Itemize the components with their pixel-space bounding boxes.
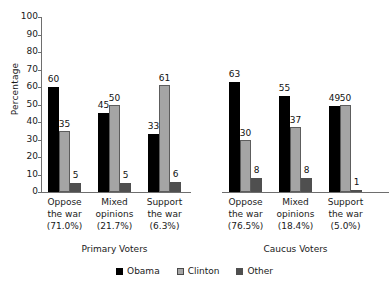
bar-obama: 45 <box>98 113 109 192</box>
legend-swatch-clinton-icon <box>177 268 184 275</box>
bar-value-label: 49 <box>329 94 340 103</box>
bar-value-label: 60 <box>48 75 59 84</box>
bar-other: 1 <box>351 190 362 192</box>
y-axis-line <box>41 17 42 192</box>
bar-value-label: 61 <box>159 74 170 83</box>
bar-obama: 63 <box>229 82 240 192</box>
bar-clinton: 35 <box>59 131 70 192</box>
y-axis-tick-mark <box>38 140 41 141</box>
bar-obama: 60 <box>48 87 59 192</box>
bar-other: 5 <box>120 183 131 192</box>
category-label-line: Support <box>315 196 377 208</box>
bar-value-label: 5 <box>123 171 129 180</box>
bar-group: 49501 <box>329 17 362 192</box>
bar-value-label: 8 <box>254 166 260 175</box>
y-axis-tick-mark <box>38 70 41 71</box>
bar-value-label: 55 <box>279 84 290 93</box>
category-label-line: Support <box>134 196 196 208</box>
bar-value-label: 8 <box>304 166 310 175</box>
legend-label: Other <box>247 266 273 276</box>
bar-clinton: 30 <box>240 140 251 193</box>
bar-other: 8 <box>251 178 262 192</box>
bar-group: 60355 <box>48 17 81 192</box>
bar-group: 33616 <box>148 17 181 192</box>
y-axis-tick-label: 20 <box>2 152 38 161</box>
bar-value-label: 50 <box>340 94 351 103</box>
y-axis-tick-label: 0 <box>2 187 38 196</box>
x-axis-line-primary <box>41 192 191 193</box>
bar-other: 6 <box>170 182 181 193</box>
category-label-line: the war <box>315 208 377 220</box>
legend-swatch-other-icon <box>236 268 243 275</box>
bar-value-label: 5 <box>73 171 79 180</box>
bar-obama: 33 <box>148 134 159 192</box>
panel-title: Primary Voters <box>55 244 175 254</box>
legend-label: Obama <box>127 266 160 276</box>
y-axis-tick-label: 80 <box>2 47 38 56</box>
y-axis-tick-mark <box>38 157 41 158</box>
y-axis-tick-label: 10 <box>2 170 38 179</box>
y-axis-tick-mark <box>38 105 41 106</box>
y-axis-tick-label: 60 <box>2 82 38 91</box>
legend-label: Clinton <box>188 266 220 276</box>
bar-group: 55378 <box>279 17 312 192</box>
category-label-line: (5.0%) <box>315 220 377 232</box>
legend-item-clinton[interactable]: Clinton <box>177 266 220 276</box>
bar-clinton: 61 <box>159 85 170 192</box>
bar-value-label: 30 <box>240 129 251 138</box>
bar-value-label: 1 <box>354 178 360 187</box>
legend-item-other[interactable]: Other <box>236 266 273 276</box>
y-axis-tick-mark <box>38 52 41 53</box>
bar-value-label: 33 <box>148 122 159 131</box>
bar-clinton: 50 <box>340 105 351 193</box>
y-axis-tick-mark <box>38 175 41 176</box>
bar-other: 8 <box>301 178 312 192</box>
category-label-line: (6.3%) <box>134 220 196 232</box>
y-axis-tick-label: 50 <box>2 100 38 109</box>
bar-group: 45505 <box>98 17 131 192</box>
category-label: Supportthe war(6.3%) <box>134 196 196 232</box>
bar-value-label: 37 <box>290 116 301 125</box>
bar-chart: Percentage 1009080706050403020100 603554… <box>0 0 389 284</box>
y-axis-tick-label: 30 <box>2 135 38 144</box>
chart-legend: ObamaClintonOther <box>0 266 389 276</box>
bar-value-label: 63 <box>229 70 240 79</box>
bar-obama: 49 <box>329 106 340 192</box>
y-axis-tick-mark <box>38 17 41 18</box>
y-axis-tick-label: 90 <box>2 30 38 39</box>
y-axis-tick-mark <box>38 87 41 88</box>
bar-value-label: 50 <box>109 94 120 103</box>
legend-item-obama[interactable]: Obama <box>116 266 160 276</box>
y-axis-tick-label: 100 <box>2 12 38 21</box>
category-label: Supportthe war(5.0%) <box>315 196 377 232</box>
bar-obama: 55 <box>279 96 290 192</box>
bar-clinton: 37 <box>290 127 301 192</box>
y-axis-tick-label: 40 <box>2 117 38 126</box>
bar-value-label: 35 <box>59 120 70 129</box>
bar-value-label: 6 <box>173 170 179 179</box>
x-axis-line-caucus <box>222 192 389 193</box>
bar-value-label: 45 <box>98 101 109 110</box>
y-axis-tick-label: 70 <box>2 65 38 74</box>
bar-clinton: 50 <box>109 105 120 193</box>
y-axis-ticks: 1009080706050403020100 <box>0 0 38 284</box>
bar-other: 5 <box>70 183 81 192</box>
y-axis-tick-mark <box>38 35 41 36</box>
panel-title: Caucus Voters <box>236 244 356 254</box>
legend-swatch-obama-icon <box>116 268 123 275</box>
y-axis-tick-mark <box>38 122 41 123</box>
bar-group: 63308 <box>229 17 262 192</box>
category-label-line: the war <box>134 208 196 220</box>
